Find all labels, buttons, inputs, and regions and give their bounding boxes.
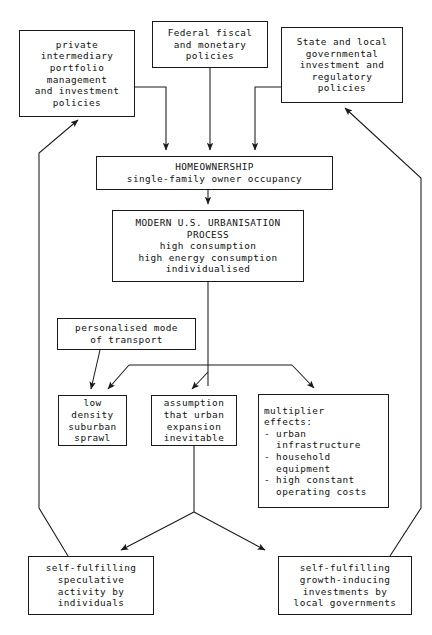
node-urban-expansion-assumption-line: that urban [164, 409, 224, 421]
node-urbanisation-process-line: individualised [166, 263, 251, 275]
node-urbanisation-process: MODERN U.S. URBANISATIONPROCESShigh cons… [112, 210, 304, 282]
node-urban-expansion-assumption-line: expansion [167, 421, 221, 433]
node-private-intermediary-line: private [56, 39, 98, 51]
node-speculative-activity-line: speculative [58, 574, 125, 586]
node-suburban-sprawl: lowdensitysuburbansprawl [58, 395, 127, 446]
node-state-local-line: governmental [306, 48, 379, 60]
node-homeownership-line: HOMEOWNERSHIP [175, 161, 254, 173]
node-multiplier-effects-line: operating costs [264, 486, 367, 498]
edge-private-to-homeownership [135, 87, 166, 150]
edge-state-to-homeownership [255, 87, 281, 150]
edge-assumption-to-speculative [121, 512, 194, 550]
node-private-intermediary: privateintermediaryportfoliomanagementan… [19, 30, 135, 117]
node-speculative-activity: self-fulfillingspeculativeactivity byind… [28, 556, 154, 615]
node-growth-inducing-investments-line: self-fulfilling [300, 562, 391, 574]
node-federal-fiscal-line: policies [186, 50, 234, 62]
node-private-intermediary-line: management [47, 74, 107, 86]
node-multiplier-effects-line: - high constant [264, 474, 355, 486]
node-urbanisation-process-line: high energy consumption [138, 252, 277, 264]
node-private-intermediary-line: and investment [35, 85, 120, 97]
node-personalised-transport: personalised modeof transport [57, 318, 196, 350]
node-growth-inducing-investments-line: growth-inducing [300, 574, 391, 586]
node-federal-fiscal-line: Federal fiscal [168, 27, 253, 39]
node-multiplier-effects-line: effects: [264, 416, 312, 428]
node-urban-expansion-assumption-line: assumption [164, 397, 224, 409]
node-speculative-activity-line: activity by [58, 586, 125, 598]
node-multiplier-effects-line: infrastructure [264, 439, 361, 451]
node-urbanisation-process-line: MODERN U.S. URBANISATION [135, 217, 280, 229]
node-personalised-transport-line: of transport [90, 334, 163, 346]
node-state-local-line: State and local [297, 36, 388, 48]
node-federal-fiscal-line: and monetary [174, 39, 247, 51]
node-multiplier-effects-line: - household [264, 451, 331, 463]
node-homeownership: HOMEOWNERSHIPsingle-family owner occupan… [96, 156, 333, 190]
node-suburban-sprawl-line: suburban [68, 421, 116, 433]
node-urbanisation-process-line: PROCESS [187, 229, 229, 241]
node-private-intermediary-line: portfolio [50, 62, 104, 74]
node-multiplier-effects: multipliereffects:- urban infrastructure… [258, 394, 389, 508]
node-urban-expansion-assumption-line: inevitable [164, 432, 224, 444]
node-speculative-activity-line: self-fulfilling [46, 562, 137, 574]
node-private-intermediary-line: intermediary [41, 50, 114, 62]
edge-transport-to-sprawl [91, 350, 100, 389]
node-personalised-transport-line: personalised mode [75, 322, 178, 334]
node-federal-fiscal: Federal fiscaland monetarypolicies [152, 21, 268, 68]
node-state-local-line: regulatory [312, 71, 372, 83]
node-suburban-sprawl-line: sprawl [74, 432, 110, 444]
edge-assumption-to-growth [194, 512, 265, 550]
node-urbanisation-process-line: high consumption [160, 240, 257, 252]
edge-bus-to-multiplier [292, 365, 314, 388]
edge-bus-to-sprawl [108, 365, 129, 389]
node-state-local-line: investment and [300, 59, 385, 71]
node-multiplier-effects-line: equipment [264, 463, 331, 475]
node-suburban-sprawl-line: low [83, 397, 101, 409]
node-suburban-sprawl-line: density [71, 409, 113, 421]
node-multiplier-effects-line: - urban [264, 428, 306, 440]
node-speculative-activity-line: individuals [58, 597, 125, 609]
node-growth-inducing-investments-line: investments by [303, 586, 388, 598]
flowchart-diagram: privateintermediaryportfoliomanagementan… [0, 0, 432, 635]
edge-bus-to-assumption [192, 372, 208, 389]
node-multiplier-effects-line: multiplier [264, 405, 324, 417]
node-growth-inducing-investments: self-fulfillinggrowth-inducinginvestment… [278, 556, 412, 615]
node-state-local: State and localgovernmentalinvestment an… [281, 27, 403, 103]
node-state-local-line: policies [318, 82, 366, 94]
node-growth-inducing-investments-line: local governments [294, 597, 397, 609]
node-urban-expansion-assumption: assumptionthat urbanexpansioninevitable [151, 395, 237, 446]
node-private-intermediary-line: policies [53, 97, 101, 109]
node-homeownership-line: single-family owner occupancy [127, 173, 302, 185]
